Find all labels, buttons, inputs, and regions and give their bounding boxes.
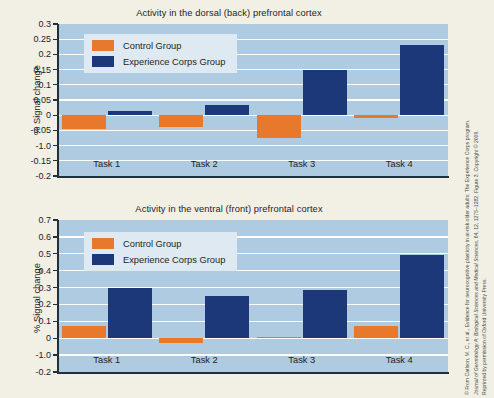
y-axis-tick-label: 0.1: [38, 80, 51, 90]
y-axis-tick: [53, 69, 58, 70]
y-axis-tick: [53, 39, 58, 40]
legend-swatch-control-icon: [92, 238, 114, 249]
chart-title-ventral: Activity in the ventral (front) prefront…: [0, 204, 458, 214]
legend-item-experience: Experience Corps Group: [92, 56, 225, 67]
y-axis-tick-label: -0.2: [35, 367, 51, 377]
bar-control: [354, 326, 398, 338]
x-axis-tick-label: Task 1: [93, 159, 120, 169]
legend-swatch-control-icon: [92, 40, 114, 51]
gridline: [58, 84, 448, 85]
credit-citation-detail: 64, 12, 1275–1282. Figure 3. Copyright ©…: [473, 130, 479, 239]
y-axis-tick-label: 0.1: [38, 316, 51, 326]
y-axis-tick: [53, 84, 58, 85]
gridline: [58, 99, 448, 100]
y-axis-tick-label: 0.2: [38, 299, 51, 309]
y-axis-tick: [53, 354, 58, 355]
plot-area-dorsal: 0.30.250.20.150.10.050-0.05-1.0-0.15-0.2…: [58, 24, 448, 176]
x-axis-tick-label: Task 4: [386, 355, 413, 365]
y-axis-tick-label: 0: [46, 110, 51, 120]
y-axis-tick: [53, 130, 58, 131]
bar-control: [159, 115, 203, 127]
y-axis-tick: [53, 115, 58, 116]
x-axis-tick-label: Task 2: [191, 355, 218, 365]
y-axis-tick: [53, 304, 58, 305]
gridline: [58, 130, 448, 131]
x-axis-line-dorsal: [57, 176, 449, 178]
y-axis-tick-label: -1.0: [35, 141, 51, 151]
legend-label-experience: Experience Corps Group: [123, 57, 225, 67]
legend-ventral: Control Group Experience Corps Group: [84, 232, 237, 271]
figure-page: Activity in the dorsal (back) prefrontal…: [0, 0, 494, 398]
y-axis-tick: [53, 145, 58, 146]
y-axis-tick: [53, 236, 58, 237]
credit-line-1: © From Carlson, M. C., et al., Evidence …: [463, 3, 472, 395]
legend-label-control: Control Group: [123, 41, 181, 51]
credit-line-2: Journal of Gerontology A: Biological Sci…: [472, 3, 481, 395]
y-axis-tick: [53, 175, 58, 176]
credit-journal-name: Journal of Gerontology A: Biological Sci…: [473, 240, 479, 395]
bar-experience: [108, 111, 152, 116]
bar-control: [62, 326, 106, 339]
y-axis-tick-label: -0.2: [35, 171, 51, 181]
legend-dorsal: Control Group Experience Corps Group: [84, 34, 237, 73]
legend-swatch-experience-icon: [92, 254, 114, 265]
y-axis-tick: [53, 287, 58, 288]
bar-control: [159, 338, 203, 343]
bar-experience: [400, 255, 444, 339]
y-axis-tick: [53, 371, 58, 372]
y-axis-tick-label: 0.2: [38, 49, 51, 59]
y-axis-tick: [53, 270, 58, 271]
y-axis-tick-label: 0.15: [33, 65, 51, 75]
bar-experience: [108, 288, 152, 339]
bar-control: [354, 115, 398, 117]
chart-panel-dorsal: Activity in the dorsal (back) prefrontal…: [0, 2, 458, 198]
bar-experience: [400, 45, 444, 115]
x-axis-tick-label: Task 4: [386, 159, 413, 169]
bar-experience: [303, 290, 347, 338]
y-axis-tick: [53, 54, 58, 55]
y-axis-tick: [53, 321, 58, 322]
y-axis-tick-label: 0: [46, 333, 51, 343]
y-axis-tick-label: -0.15: [30, 156, 51, 166]
x-axis-tick-label: Task 3: [288, 355, 315, 365]
y-axis-line-ventral: [57, 220, 59, 372]
y-axis-tick: [53, 23, 58, 24]
bar-control: [257, 337, 301, 339]
bar-control: [257, 115, 301, 138]
legend-item-control: Control Group: [92, 40, 225, 51]
y-axis-tick-label: 0.4: [38, 266, 51, 276]
bar-experience: [205, 296, 249, 338]
y-axis-tick-label: 0.6: [38, 232, 51, 242]
bar-experience: [205, 105, 249, 116]
x-axis-tick-label: Task 2: [191, 159, 218, 169]
y-axis-tick-label: 0.5: [38, 249, 51, 259]
y-axis-tick: [53, 160, 58, 161]
y-axis-tick-label: -0.05: [30, 125, 51, 135]
chart-title-dorsal: Activity in the dorsal (back) prefrontal…: [0, 8, 458, 18]
credit-line-3: Reprinted by permission of Oxford Univer…: [480, 3, 489, 395]
x-axis-line-ventral: [57, 372, 449, 374]
legend-label-experience: Experience Corps Group: [123, 255, 225, 265]
y-axis-tick-label: 0.7: [38, 215, 51, 225]
y-axis-tick-label: 0.25: [33, 34, 51, 44]
bar-control: [62, 115, 106, 129]
y-axis-tick-label: -1.0: [35, 350, 51, 360]
chart-panel-ventral: Activity in the ventral (front) prefront…: [0, 198, 458, 398]
legend-item-experience: Experience Corps Group: [92, 254, 225, 265]
y-axis-tick-label: 0.3: [38, 19, 51, 29]
copyright-credit: © From Carlson, M. C., et al., Evidence …: [458, 0, 494, 398]
y-axis-tick: [53, 253, 58, 254]
x-axis-tick-label: Task 3: [288, 159, 315, 169]
y-axis-tick: [53, 99, 58, 100]
legend-swatch-experience-icon: [92, 56, 114, 67]
y-axis-tick-label: 0.3: [38, 283, 51, 293]
y-axis-tick: [53, 219, 58, 220]
plot-area-ventral: 0.70.60.50.40.30.20.10-1.0-0.2 Task 1Tas…: [58, 220, 448, 372]
x-axis-tick-label: Task 1: [93, 355, 120, 365]
y-axis-tick: [53, 338, 58, 339]
legend-label-control: Control Group: [123, 239, 181, 249]
y-axis-tick-label: 0.05: [33, 95, 51, 105]
gridline: [58, 145, 448, 146]
legend-item-control: Control Group: [92, 238, 225, 249]
bar-experience: [303, 70, 347, 116]
